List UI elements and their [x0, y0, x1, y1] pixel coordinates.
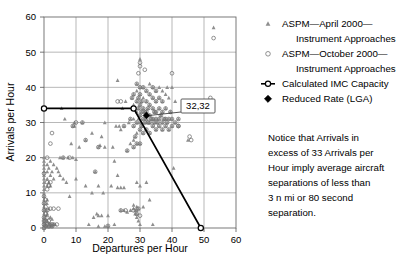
- note-line: Notice that Arrivals in: [268, 132, 359, 143]
- legend-item-label: Reduced Rate (LGA): [282, 93, 372, 104]
- explanatory-note: Notice that Arrivals inexcess of 33 Arri…: [268, 132, 385, 218]
- data-point-april: [132, 203, 136, 207]
- data-point-october: [49, 142, 53, 146]
- data-point-april: [141, 205, 145, 209]
- data-point-april: [69, 142, 73, 146]
- legend-marker-open-circle-icon: [265, 81, 270, 86]
- data-point-april: [42, 163, 46, 167]
- data-point-april: [112, 159, 116, 163]
- data-point-april: [42, 177, 46, 181]
- data-point-april: [48, 159, 52, 163]
- data-point-april: [45, 163, 49, 167]
- figure-container: 0102030405060 0102030405060 32,32 Depart…: [0, 0, 416, 259]
- data-point-april: [47, 166, 51, 170]
- data-point-april: [138, 184, 142, 188]
- note-line: Hour imply average aircraft: [268, 162, 385, 173]
- data-point-april: [128, 142, 132, 146]
- data-point-april: [135, 89, 139, 93]
- note-line: excess of 33 Arrivals per: [268, 147, 374, 158]
- y-tick-label: 10: [25, 187, 36, 198]
- callout-label: 32,32: [186, 100, 210, 111]
- data-point-april: [48, 173, 52, 177]
- note-line: 3 n mi or 80 second: [268, 192, 353, 203]
- y-tick-label: 40: [25, 82, 36, 93]
- data-point-april: [167, 96, 171, 100]
- legend-marker-triangle-icon: [266, 21, 271, 26]
- data-point-april: [135, 131, 139, 135]
- y-tick-label: 50: [25, 47, 36, 58]
- data-point-april: [58, 173, 62, 177]
- data-point-october: [143, 68, 147, 72]
- data-point-april: [119, 185, 123, 189]
- data-point-april: [212, 25, 216, 29]
- tick-marks: [40, 17, 236, 232]
- y-axis-title: Arrivals per Hour: [4, 82, 16, 161]
- note-line: separation.: [268, 207, 316, 218]
- data-point-october: [57, 207, 61, 211]
- data-point-april: [42, 184, 46, 188]
- capacity-vertex-marker: [131, 106, 136, 111]
- data-point-october: [50, 131, 54, 135]
- x-tick-label: 50: [199, 234, 210, 245]
- y-tick-label: 60: [25, 11, 36, 22]
- data-point-april: [173, 99, 177, 103]
- data-point-april: [96, 184, 100, 188]
- data-point-april: [61, 177, 65, 181]
- data-point-april: [109, 184, 113, 188]
- chart-canvas: 0102030405060 0102030405060 32,32 Depart…: [0, 0, 416, 259]
- data-point-april: [106, 214, 110, 218]
- data-point-april: [114, 124, 118, 128]
- data-point-april: [74, 177, 78, 181]
- data-point-april: [100, 134, 104, 138]
- data-point-april: [148, 82, 152, 86]
- series-april-2000-points: [42, 25, 215, 229]
- x-tick-label: 0: [41, 234, 46, 245]
- data-point-april: [117, 124, 121, 128]
- data-point-april: [160, 89, 164, 93]
- legend-marker-diamond-icon: [264, 95, 271, 102]
- data-point-october: [188, 135, 192, 139]
- data-point-april: [90, 131, 94, 135]
- data-point-april: [119, 127, 123, 131]
- legend-item-label: ASPM—April 2000—: [282, 18, 373, 29]
- y-tick-labels: 0102030405060: [25, 11, 36, 233]
- y-tick-label: 20: [25, 152, 36, 163]
- data-point-october: [212, 36, 216, 40]
- data-point-april: [164, 92, 168, 96]
- legend-marker-circle-icon: [266, 52, 271, 57]
- x-axis-title: Departures per Hour: [92, 242, 188, 254]
- data-point-april: [42, 159, 46, 163]
- y-tick-label: 0: [31, 222, 36, 233]
- data-point-october: [45, 187, 49, 191]
- data-point-april: [100, 214, 104, 218]
- data-point-april: [63, 117, 67, 121]
- data-point-april: [52, 163, 56, 167]
- data-point-april: [141, 96, 145, 100]
- data-point-april: [96, 224, 100, 228]
- data-point-april: [52, 177, 56, 181]
- data-point-april: [103, 145, 107, 149]
- data-point-april: [148, 198, 152, 202]
- legend-item-label: Calculated IMC Capacity: [282, 78, 389, 89]
- legend-item-label: Instrument Approaches: [296, 63, 396, 74]
- data-point-april: [84, 184, 88, 188]
- data-point-april: [116, 78, 120, 82]
- chart-legend: ASPM—April 2000—Instrument ApproachesASP…: [261, 18, 396, 104]
- capacity-vertex-marker: [198, 225, 203, 230]
- data-point-april: [111, 145, 115, 149]
- data-point-april: [112, 222, 116, 226]
- y-tick-label: 30: [25, 117, 36, 128]
- data-point-april: [151, 222, 155, 226]
- capacity-vertex-marker: [41, 106, 46, 111]
- data-point-april: [64, 180, 68, 184]
- legend-item-label: ASPM—October 2000—: [282, 48, 388, 59]
- legend-item-label: Instrument Approaches: [296, 33, 396, 44]
- data-point-april: [50, 170, 54, 174]
- x-tick-label: 10: [71, 234, 82, 245]
- note-line: separations of less than: [268, 177, 370, 188]
- series-october-2000-points: [42, 36, 215, 230]
- data-point-april: [122, 185, 126, 189]
- data-point-april: [138, 222, 142, 226]
- data-point-october: [189, 138, 193, 142]
- data-point-april: [42, 166, 46, 170]
